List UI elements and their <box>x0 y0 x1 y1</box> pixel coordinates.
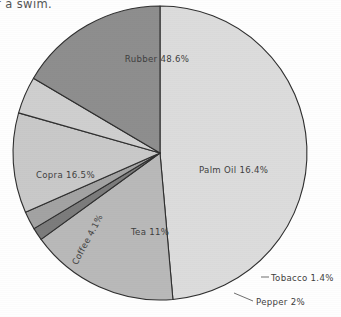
slice-label-palm-oil: Palm Oil 16.4% <box>199 165 268 175</box>
slice-label-rubber: Rubber 48.6% <box>125 54 189 64</box>
slice-label-copra: Copra 16.5% <box>36 170 95 180</box>
slice-label-tea: Tea 11% <box>130 227 169 237</box>
slice-label-tobacco: Tobacco 1.4% <box>270 273 334 283</box>
pie-slices-group <box>13 6 307 300</box>
leader-line-pepper <box>234 293 253 301</box>
chart-page: r a swim. Rubber 48.6%Palm Oil 16.4%Toba… <box>0 0 341 317</box>
slice-label-pepper: Pepper 2% <box>256 297 305 307</box>
pie-chart: Rubber 48.6%Palm Oil 16.4%Tobacco 1.4%Pe… <box>0 0 341 317</box>
pie-slice-rubber[interactable] <box>160 6 307 299</box>
